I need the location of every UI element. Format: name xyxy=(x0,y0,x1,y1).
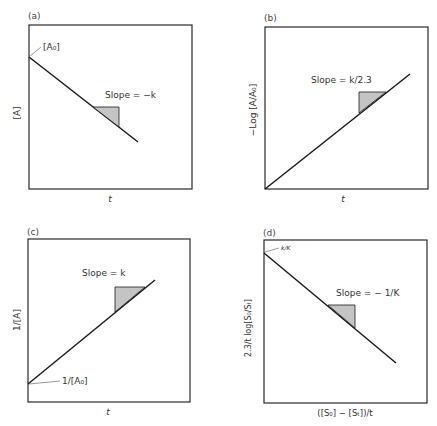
panel-b-slope-label: Slope = k/2.3 xyxy=(311,75,372,85)
panel-b-xlabel: t xyxy=(341,194,345,204)
panel-a-ylabel: [A] xyxy=(12,106,22,119)
kinetics-figure: (a) [A₀] Slope = −k [A] t (b) Slope = k/… xyxy=(0,0,437,426)
panel-b-label: (b) xyxy=(264,13,277,23)
panel-a: (a) [A₀] Slope = −k [A] t xyxy=(12,11,192,204)
panel-b: (b) Slope = k/2.3 −Log [A/A₀] t xyxy=(248,13,428,204)
panel-b-frame xyxy=(265,27,428,189)
panel-a-slope-triangle xyxy=(93,107,119,127)
panel-a-intercept-label: [A₀] xyxy=(43,42,60,52)
panel-d-slope-label: Slope = − 1/K xyxy=(336,288,400,298)
panel-b-ylabel: −Log [A/A₀] xyxy=(248,84,258,136)
panel-a-label: (a) xyxy=(28,11,41,21)
panel-c-ylabel: 1/[A] xyxy=(12,309,22,331)
panel-d-ylabel: 2.3/t log[S₀/Sₜ] xyxy=(244,299,253,357)
panel-b-slope-triangle xyxy=(359,92,386,113)
panel-c-xlabel: t xyxy=(106,407,110,417)
panel-a-slope-label: Slope = −k xyxy=(105,90,157,100)
panel-a-xlabel: t xyxy=(108,194,112,204)
panel-c-label: (c) xyxy=(27,227,39,237)
panel-d-line xyxy=(264,253,396,363)
panel-a-intercept-leader xyxy=(30,47,41,56)
panel-d-label: (d) xyxy=(263,228,276,238)
panel-d-slope-triangle xyxy=(328,305,355,328)
panel-b-line xyxy=(265,74,410,189)
panel-d: (d) k/K Slope = − 1/K 2.3/t log[S₀/Sₜ] (… xyxy=(244,228,427,418)
panel-c-slope-label: Slope = k xyxy=(82,268,126,278)
panel-c-frame xyxy=(28,239,190,402)
panel-d-intercept-label: k/K xyxy=(281,244,291,251)
panel-c-intercept-label: 1/[A₀] xyxy=(62,376,88,386)
panel-c-slope-triangle xyxy=(115,287,145,312)
panel-c: (c) 1/[A₀] Slope = k 1/[A] t xyxy=(12,227,190,417)
panel-d-intercept-leader xyxy=(265,248,279,252)
panel-c-line xyxy=(28,280,155,384)
panel-d-xlabel: ([S₀] − [Sₜ])/t xyxy=(317,408,373,418)
panel-c-intercept-leader xyxy=(29,381,60,384)
